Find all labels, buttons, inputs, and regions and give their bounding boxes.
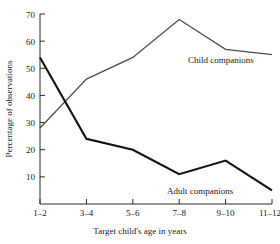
y-tick-label-40: 40	[26, 91, 36, 101]
series-label-adult-companions: Adult companions	[167, 186, 234, 196]
y-tick-label-30: 30	[26, 118, 36, 128]
y-tick-label-10: 10	[26, 172, 36, 182]
y-tick-label-60: 60	[26, 37, 36, 47]
series-label-child-companions: Child companions	[188, 55, 254, 65]
x-axis-title: Target child's age in years	[93, 226, 187, 236]
x-tick-label-1-2: 1–2	[33, 208, 47, 218]
series-line-adult-companions	[40, 57, 272, 190]
y-tick-labels: 70 60 50 40 30 20 10	[26, 10, 36, 183]
x-tick-marks	[40, 199, 272, 204]
y-tick-label-50: 50	[26, 64, 36, 74]
x-tick-label-11-12: 11–12	[259, 208, 280, 218]
y-tick-label-70: 70	[26, 10, 36, 20]
chart-canvas: 70 60 50 40 30 20 10 1–2 3–4 5–6 7–8 9–1…	[0, 0, 280, 244]
x-tick-label-9-10: 9–10	[217, 208, 236, 218]
x-tick-label-5-6: 5–6	[126, 208, 140, 218]
x-tick-label-7-8: 7–8	[172, 208, 186, 218]
x-tick-label-3-4: 3–4	[80, 208, 94, 218]
y-tick-marks	[40, 14, 45, 177]
y-tick-label-20: 20	[26, 145, 36, 155]
x-tick-labels: 1–2 3–4 5–6 7–8 9–10 11–12	[33, 208, 280, 218]
line-chart: 70 60 50 40 30 20 10 1–2 3–4 5–6 7–8 9–1…	[0, 0, 280, 244]
y-axis-title: Percentage of observations	[4, 60, 14, 157]
series-line-child-companions	[40, 19, 272, 128]
